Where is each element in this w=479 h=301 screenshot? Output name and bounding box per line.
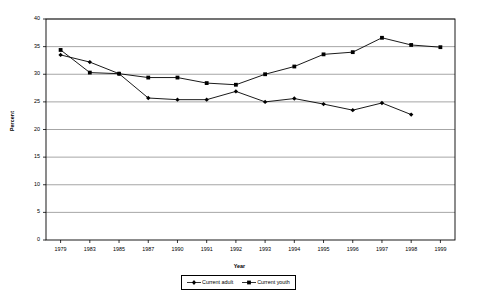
x-tick-1999: 1999 [420, 247, 460, 252]
y-tick-30: 30 [18, 71, 40, 76]
gridlines [46, 19, 455, 212]
legend-label-current-youth: Current youth [257, 280, 290, 285]
series-current-youth [59, 36, 443, 87]
legend-marker-square-icon [242, 278, 256, 287]
legend-item-current-youth[interactable]: Current youth [242, 278, 290, 287]
y-tick-20: 20 [18, 127, 40, 132]
y-tick-35: 35 [18, 44, 40, 49]
legend-label-current-adult: Current adult [202, 280, 233, 285]
legend-item-current-adult[interactable]: Current adult [187, 278, 233, 287]
data-series-group [58, 36, 442, 117]
axis-ticks [43, 19, 440, 243]
y-tick-10: 10 [18, 182, 40, 187]
y-tick-40: 40 [18, 16, 40, 21]
y-tick-15: 15 [18, 154, 40, 159]
y-tick-0: 0 [18, 237, 40, 242]
y-axis-title: Percent [9, 91, 15, 151]
plot-area [0, 0, 479, 301]
chart-legend: Current adult Current youth [181, 275, 296, 290]
x-axis-title: Year [0, 263, 479, 269]
legend-marker-diamond-icon [187, 278, 201, 287]
line-chart: Percent 0510152025303540 197919831985198… [0, 0, 479, 301]
y-tick-5: 5 [18, 209, 40, 214]
y-tick-25: 25 [18, 99, 40, 104]
